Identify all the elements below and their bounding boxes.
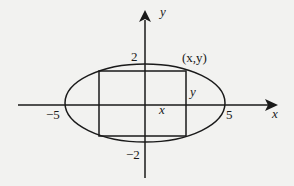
- tick-y-pos: 2: [131, 49, 138, 64]
- ellipse-rectangle-diagram: y x −5 5 2 −2 (x,y) y x: [0, 0, 294, 186]
- y-axis-label: y: [158, 4, 166, 19]
- rect-half-width-label: x: [158, 102, 165, 117]
- tick-y-neg: −2: [126, 147, 140, 162]
- inscribed-rectangle: [99, 71, 186, 136]
- rect-half-height-label: y: [188, 84, 196, 99]
- tick-x-neg: −5: [46, 107, 60, 122]
- tick-x-pos: 5: [226, 107, 233, 122]
- point-label: (x,y): [182, 50, 207, 65]
- x-axis-label: x: [271, 106, 278, 121]
